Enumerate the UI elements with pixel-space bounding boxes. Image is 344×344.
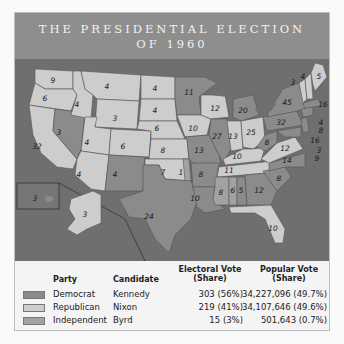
state-kansas (149, 139, 189, 159)
swatch-democrat (23, 291, 45, 299)
state-new-mexico (105, 155, 145, 191)
legend-row-democrat: Democrat Kennedy 303 (56%) 34,227,096 (4… (15, 289, 329, 302)
legend-row-independent: Independent Byrd 15 (3%) 501,643 (0.7%) (15, 315, 329, 328)
ev-label-sc: 8 (277, 174, 282, 183)
ev-label-tx: 24 (144, 212, 154, 221)
map-title: THE PRESIDENTIAL ELECTION OF 1960 (15, 13, 329, 59)
ev-label-in: 13 (228, 132, 238, 141)
ev-label-il: 27 (212, 132, 222, 141)
electoral-vote: 15 (3%) (209, 315, 243, 325)
ev-label-me: 5 (317, 72, 322, 81)
ev-label-ak: 3 (83, 210, 88, 219)
election-map-figure: THE PRESIDENTIAL ELECTION OF 1960 (14, 12, 330, 331)
ev-label-ga: 12 (254, 186, 264, 195)
header-electoral-line1: Electoral Vote (175, 265, 245, 274)
ev-label-wy: 3 (113, 114, 118, 123)
ev-label-ut: 4 (85, 138, 90, 147)
electoral-vote: 303 (56%) (199, 289, 243, 299)
header-electoral-line2: (Share) (175, 274, 245, 283)
ev-label-co: 6 (121, 142, 126, 151)
hawaii-inset (17, 183, 59, 209)
state-hawaii (45, 196, 53, 202)
swatch-independent (23, 317, 45, 325)
ev-label-wa: 9 (51, 76, 56, 85)
party-name: Democrat (53, 289, 95, 299)
legend-table: Party Candidate Electoral Vote (Share) P… (15, 261, 329, 330)
us-map-svg: 9 6 32 3 4 4 3 4 4 6 4 4 4 6 8 7 1 24 11… (15, 59, 329, 261)
ev-label-nh: 4 (301, 72, 306, 81)
ev-label-al-byrd: 6 (231, 186, 236, 195)
ev-label-nj: 16 (310, 136, 320, 145)
us-map: 9 6 32 3 4 4 3 4 4 6 4 4 4 6 8 7 1 24 11… (15, 59, 329, 261)
state-colorado (109, 129, 151, 157)
ev-label-ky: 10 (232, 152, 242, 161)
legend-row-republican: Republican Nixon 219 (41%) 34,107,646 (4… (15, 302, 329, 315)
popular-vote: 501,643 (0.7%) (261, 315, 327, 325)
ev-label-fl: 10 (268, 224, 278, 233)
ev-label-nm: 4 (113, 170, 118, 179)
ev-label-ms: 8 (219, 188, 224, 197)
ev-label-ct: 8 (319, 126, 324, 135)
ev-label-mn: 11 (184, 88, 194, 97)
ev-label-mi: 20 (238, 106, 248, 115)
state-new-jersey (301, 117, 309, 133)
title-line-1: THE PRESIDENTIAL ELECTION (15, 22, 329, 37)
candidate-name: Byrd (113, 315, 133, 325)
ev-label-id: 4 (75, 100, 80, 109)
candidate-name: Kennedy (113, 289, 150, 299)
ev-label-md: 9 (315, 154, 320, 163)
ev-label-tn: 11 (224, 166, 234, 175)
ev-label-ks: 8 (161, 146, 166, 155)
header-popular: Popular Vote (Share) (249, 265, 329, 283)
header-party: Party (35, 275, 95, 284)
ev-label-hi: 3 (33, 194, 38, 203)
ev-label-oh: 25 (246, 128, 256, 137)
ev-label-wi: 12 (210, 104, 220, 113)
ev-label-or: 6 (43, 94, 48, 103)
state-connecticut (301, 107, 313, 117)
electoral-vote: 219 (41%) (199, 302, 243, 312)
ev-label-ny: 45 (282, 98, 292, 107)
ev-label-ok-byrd: 1 (179, 168, 184, 177)
header-popular-line1: Popular Vote (249, 265, 329, 274)
header-electoral: Electoral Vote (Share) (175, 265, 245, 283)
ev-label-nv: 3 (57, 128, 62, 137)
ev-label-vt: 3 (291, 78, 296, 87)
ev-label-sd: 4 (153, 106, 158, 115)
ev-label-pa: 32 (276, 118, 286, 127)
popular-vote: 34,227,096 (49.7%) (242, 289, 327, 299)
header-popular-line2: (Share) (249, 274, 329, 283)
ev-label-nd: 4 (153, 84, 158, 93)
state-north-dakota (141, 75, 175, 99)
ev-label-ne: 6 (155, 124, 160, 133)
candidate-name: Nixon (113, 302, 137, 312)
ev-label-la: 10 (190, 194, 200, 203)
popular-vote: 34,107,646 (49.6%) (242, 302, 327, 312)
party-name: Republican (53, 302, 100, 312)
ev-label-ok: 7 (161, 168, 166, 177)
ev-label-ca: 32 (32, 142, 42, 151)
ev-label-ia: 10 (188, 124, 198, 133)
state-south-dakota (139, 99, 177, 121)
ev-label-wv: 8 (265, 138, 270, 147)
swatch-republican (23, 304, 45, 312)
ev-label-nc: 14 (282, 156, 292, 165)
ev-label-mt: 4 (105, 82, 110, 91)
header-candidate: Candidate (113, 275, 173, 284)
party-name: Independent (53, 315, 107, 325)
ev-label-az: 4 (77, 170, 82, 179)
title-line-2: OF 1960 (15, 37, 329, 52)
ev-label-ar: 8 (199, 170, 204, 179)
ev-label-ma: 16 (318, 100, 328, 109)
ev-label-al-kennedy: 5 (239, 186, 244, 195)
ev-label-mo: 13 (194, 146, 204, 155)
ev-label-va: 12 (280, 144, 290, 153)
